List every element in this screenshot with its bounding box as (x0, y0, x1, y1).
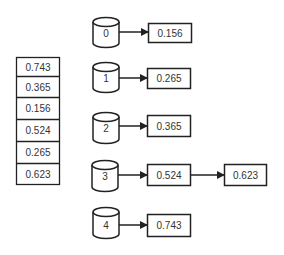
bucket-2: 2 0.365 (93, 113, 191, 144)
bucket-3: 3 0.524 0.623 (92, 161, 267, 192)
bucket-label: 3 (102, 171, 108, 182)
array-cell: 0.265 (25, 147, 50, 158)
bucket-label: 0 (103, 28, 109, 39)
bucket-label: 4 (103, 220, 109, 231)
input-array: 0.743 0.365 0.156 0.524 0.265 0.623 (17, 58, 60, 185)
array-cell: 0.743 (25, 62, 50, 73)
bucket-item: 0.524 (156, 170, 181, 181)
array-cell: 0.524 (25, 125, 50, 136)
bucket-item: 0.743 (156, 220, 181, 231)
bucket-sort-diagram: 0.743 0.365 0.156 0.524 0.265 0.623 0 0.… (0, 0, 284, 255)
bucket-4: 4 0.743 (93, 208, 191, 239)
bucket-item: 0.156 (157, 28, 182, 39)
bucket-1: 1 0.265 (93, 63, 191, 93)
array-cell: 0.365 (25, 82, 50, 93)
array-cell: 0.623 (25, 169, 50, 180)
array-cell: 0.156 (25, 103, 50, 114)
bucket-label: 2 (103, 123, 109, 134)
bucket-0: 0 0.156 (93, 18, 192, 48)
bucket-item: 0.365 (156, 121, 181, 132)
bucket-item: 0.623 (233, 170, 258, 181)
bucket-item: 0.265 (156, 73, 181, 84)
bucket-label: 1 (103, 73, 109, 84)
